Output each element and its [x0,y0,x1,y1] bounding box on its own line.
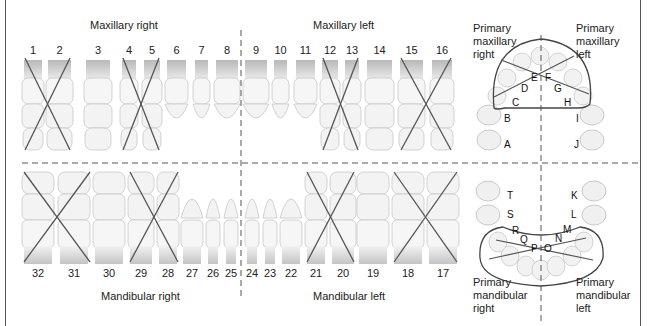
label-primary-mandibular-right: Primarymandibularright [473,276,527,315]
tooth-11 [294,60,317,118]
tooth-number-8: 8 [217,44,237,56]
tooth-29 [128,172,154,264]
tooth-23 [263,199,277,264]
tooth-number-2: 2 [50,44,70,56]
tooth-9 [243,60,269,118]
tooth-number-17: 17 [433,267,453,279]
tooth-19 [357,172,389,264]
tooth-number-16: 16 [432,44,452,56]
tooth-number-4: 4 [119,44,139,56]
tooth-31 [58,172,90,264]
tooth-12 [320,60,340,150]
primary-tooth-N: N [555,233,562,244]
tooth-number-19: 19 [363,267,383,279]
primary-tooth-A: A [504,139,511,150]
label-primary-maxillary-right: Primarymaxillaryright [473,22,516,61]
primary-tooth-O: O [544,243,552,254]
primary-tooth-D: D [521,83,528,94]
tooth-2 [46,60,73,150]
primary-tooth-M: M [563,224,571,235]
primary-tooth-P: P [531,243,538,254]
tooth-number-15: 15 [402,44,422,56]
tooth-number-1: 1 [23,44,43,56]
tooth-30 [93,172,125,264]
primary-tooth-J: J [574,139,579,150]
tooth-number-29: 29 [131,267,151,279]
tooth-number-24: 24 [242,267,262,279]
primary-tooth-S: S [507,209,514,220]
tooth-5 [142,60,162,150]
tooth-7 [193,60,210,118]
tooth-3 [84,60,112,150]
tooth-10 [272,60,289,118]
tooth-number-9: 9 [246,44,266,56]
tooth-number-28: 28 [158,267,178,279]
tooth-28 [157,172,179,264]
tooth-number-23: 23 [260,267,280,279]
tooth-26 [206,199,220,264]
tooth-number-5: 5 [142,44,162,56]
tooth-14 [365,60,394,150]
tooth-number-13: 13 [342,44,362,56]
tooth-18 [392,172,424,264]
tooth-21 [305,172,327,264]
tooth-22 [280,199,302,264]
permanent-upper-teeth [22,58,454,150]
tooth-number-22: 22 [281,267,301,279]
tooth-15 [398,60,425,150]
tooth-number-3: 3 [88,44,108,56]
primary-tooth-C: C [512,97,519,108]
tooth-24 [245,199,259,264]
tooth-32 [22,172,54,264]
tooth-number-10: 10 [271,44,291,56]
primary-tooth-H: H [564,97,571,108]
primary-tooth-T: T [507,190,513,201]
label-primary-mandibular-left: Primarymandibularleft [576,276,630,315]
tooth-number-30: 30 [99,267,119,279]
tooth-8 [214,60,240,118]
primary-tooth-G: G [554,83,562,94]
tooth-number-6: 6 [167,44,187,56]
tooth-27 [181,199,203,264]
tooth-number-12: 12 [320,44,340,56]
tooth-number-31: 31 [64,267,84,279]
tooth-number-21: 21 [306,267,326,279]
primary-tooth-I: I [576,113,579,124]
tooth-number-25: 25 [221,267,241,279]
tooth-20 [330,172,356,264]
label-maxillary-right: Maxillary right [90,19,158,31]
label-mandibular-right: Mandibular right [101,290,180,302]
primary-tooth-B: B [504,113,511,124]
tooth-6 [165,60,188,118]
primary-tooth-K: K [571,190,578,201]
tooth-number-20: 20 [333,267,353,279]
primary-tooth-L: L [571,209,577,220]
label-primary-maxillary-left: Primarymaxillaryleft [576,22,619,61]
primary-tooth-F: F [545,72,551,83]
tooth-25 [224,199,238,264]
label-maxillary-left: Maxillary left [313,19,374,31]
tooth-number-14: 14 [370,44,390,56]
tooth-number-26: 26 [203,267,223,279]
tooth-number-7: 7 [192,44,212,56]
tooth-number-27: 27 [182,267,202,279]
tooth-17 [427,172,459,264]
primary-tooth-Q: Q [520,234,528,245]
primary-tooth-R: R [512,225,519,236]
tooth-number-32: 32 [28,267,48,279]
tooth-number-18: 18 [398,267,418,279]
label-mandibular-left: Mandibular left [313,290,385,302]
primary-tooth-E: E [531,72,538,83]
tooth-number-11: 11 [296,44,316,56]
